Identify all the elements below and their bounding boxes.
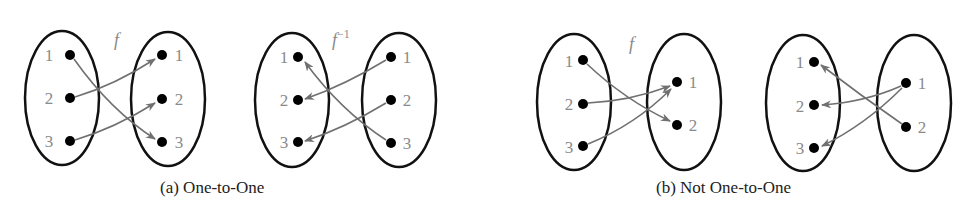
domain-element-label: 1 — [45, 46, 54, 65]
map-label-f: f — [114, 30, 122, 50]
domain-element-label: 3 — [280, 133, 289, 152]
codomain-element-label: 2 — [175, 90, 184, 109]
map-label-superscript: −1 — [337, 27, 350, 41]
codomain-element-dot — [386, 52, 396, 62]
caption-not-one-to-one: (b) Not One-to-One — [656, 178, 791, 198]
codomain-element-label: 2 — [403, 91, 412, 110]
inverse-arrow-2-to-1 — [821, 65, 902, 124]
panel-b-inverse-mapping: 1 2 3 1 2 — [766, 35, 951, 171]
map-label-f: f — [629, 34, 637, 54]
panel-a-f-mapping: f 1 2 3 1 2 3 — [25, 30, 205, 166]
codomain-element-label: 3 — [403, 134, 412, 153]
domain-element-label: 2 — [796, 97, 805, 116]
codomain-element-dot — [672, 120, 682, 130]
codomain-element-label: 2 — [689, 116, 698, 135]
domain-element-label: 3 — [796, 139, 805, 158]
codomain-set-ellipse — [877, 35, 951, 171]
domain-element-label: 3 — [565, 138, 574, 157]
codomain-set-ellipse — [362, 33, 436, 167]
codomain-element-dot — [157, 50, 167, 60]
mapping-arrow-3-to-2 — [75, 103, 155, 140]
domain-element-label: 1 — [796, 53, 805, 72]
mapping-arrow-1-to-3 — [74, 59, 155, 139]
domain-element-dot — [809, 143, 819, 153]
domain-element-dot — [293, 95, 303, 105]
domain-element-dot — [293, 52, 303, 62]
mapping-arrow-2-to-1 — [75, 59, 155, 97]
domain-element-dot — [578, 141, 588, 151]
mapping-arrow-1-to-2 — [587, 64, 670, 121]
map-label-f-inverse: f−1 — [332, 27, 350, 50]
domain-element-dot — [578, 55, 588, 65]
codomain-element-label: 2 — [918, 118, 927, 137]
domain-element-dot — [809, 57, 819, 67]
inverse-arrow-3-to-1 — [305, 62, 386, 140]
domain-element-dot — [578, 99, 588, 109]
codomain-element-dot — [157, 137, 167, 147]
codomain-element-dot — [901, 122, 911, 132]
domain-element-dot — [65, 136, 75, 146]
domain-element-dot — [293, 137, 303, 147]
domain-element-label: 1 — [280, 48, 289, 67]
domain-element-label: 2 — [565, 95, 574, 114]
inverse-arrow-1-to-2 — [305, 60, 386, 99]
domain-element-label: 2 — [280, 91, 289, 110]
domain-element-dot — [809, 100, 819, 110]
codomain-element-label: 3 — [175, 133, 184, 152]
function-mapping-diagram: f 1 2 3 1 2 3 f−1 1 2 3 1 — [0, 0, 962, 211]
domain-set-ellipse — [255, 33, 329, 167]
codomain-set-ellipse — [131, 32, 205, 166]
domain-element-dot — [65, 93, 75, 103]
codomain-element-dot — [157, 94, 167, 104]
codomain-element-dot — [386, 95, 396, 105]
codomain-element-dot — [672, 77, 682, 87]
domain-element-label: 3 — [45, 132, 54, 151]
codomain-element-label: 1 — [175, 46, 184, 65]
domain-element-label: 2 — [45, 89, 54, 108]
domain-set-ellipse — [25, 31, 99, 165]
domain-element-label: 1 — [565, 52, 574, 71]
codomain-element-label: 1 — [403, 48, 412, 67]
codomain-element-label: 1 — [918, 74, 927, 93]
codomain-element-label: 1 — [689, 73, 698, 92]
codomain-element-dot — [901, 78, 911, 88]
panel-b-f-mapping: f 1 2 3 1 2 — [537, 34, 721, 170]
panel-a-f-inverse-mapping: f−1 1 2 3 1 2 3 — [255, 27, 436, 167]
codomain-element-dot — [386, 138, 396, 148]
caption-one-to-one: (a) One-to-One — [160, 178, 264, 198]
domain-element-dot — [65, 50, 75, 60]
